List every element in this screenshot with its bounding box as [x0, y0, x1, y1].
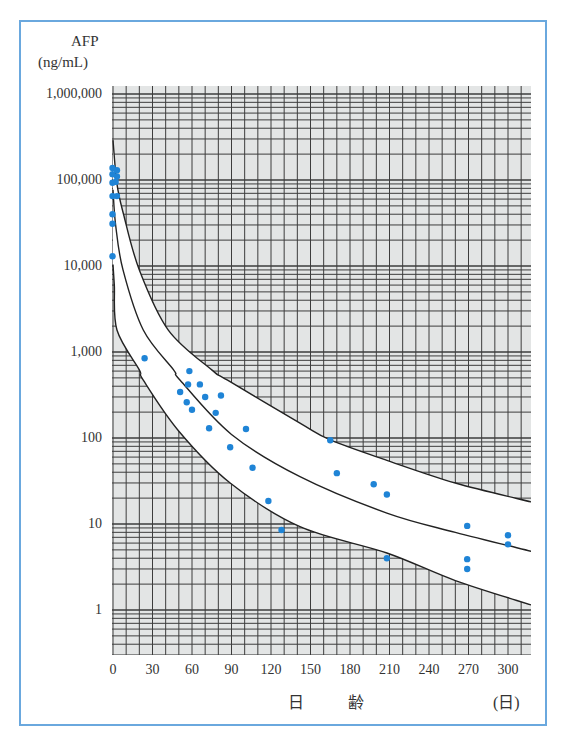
data-point: [114, 193, 120, 199]
data-point: [243, 426, 249, 432]
data-point: [189, 407, 195, 413]
x-tick-label: 300: [498, 662, 519, 678]
x-tick-label: 150: [300, 662, 321, 678]
x-tick-label: 120: [261, 662, 282, 678]
y-tick-label: 100: [81, 430, 102, 446]
data-point: [464, 523, 470, 529]
data-point: [114, 173, 120, 179]
data-point: [384, 555, 390, 561]
data-point: [184, 399, 190, 405]
x-axis-title: 日 齢: [288, 689, 378, 713]
data-point: [109, 253, 115, 259]
x-tick-label: 30: [146, 662, 160, 678]
data-point: [278, 527, 284, 533]
data-point: [206, 425, 212, 431]
y-tick-label: 10: [88, 516, 102, 532]
x-tick-label: 240: [419, 662, 440, 678]
afp-chart-plot: [0, 0, 564, 742]
data-point: [218, 392, 224, 398]
data-point: [141, 355, 147, 361]
x-tick-label: 210: [379, 662, 400, 678]
data-point: [197, 381, 203, 387]
x-tick-label: 0: [110, 662, 117, 678]
y-tick-label: 1: [95, 602, 102, 618]
data-point: [177, 389, 183, 395]
data-point: [505, 532, 511, 538]
data-point: [227, 444, 233, 450]
x-tick-label: 270: [458, 662, 479, 678]
x-axis-unit: (日): [493, 689, 520, 713]
data-point: [109, 221, 115, 227]
data-point: [249, 465, 255, 471]
y-tick-label: 10,000: [64, 258, 103, 274]
data-point: [371, 481, 377, 487]
x-tick-label: 60: [185, 662, 199, 678]
data-point: [109, 211, 115, 217]
data-point: [265, 498, 271, 504]
data-point: [334, 470, 340, 476]
x-tick-label: 90: [225, 662, 239, 678]
y-tick-label: 100,000: [57, 172, 103, 188]
x-tick-label: 180: [340, 662, 361, 678]
data-point: [112, 179, 118, 185]
data-point: [327, 437, 333, 443]
grid: [112, 86, 534, 655]
y-tick-label: 1,000,000: [46, 86, 102, 102]
data-point: [186, 368, 192, 374]
data-point: [505, 541, 511, 547]
y-tick-label: 1,000: [71, 344, 103, 360]
data-point: [464, 556, 470, 562]
data-point: [202, 394, 208, 400]
data-point: [464, 566, 470, 572]
data-point: [213, 410, 219, 416]
data-point: [185, 381, 191, 387]
data-point: [384, 491, 390, 497]
